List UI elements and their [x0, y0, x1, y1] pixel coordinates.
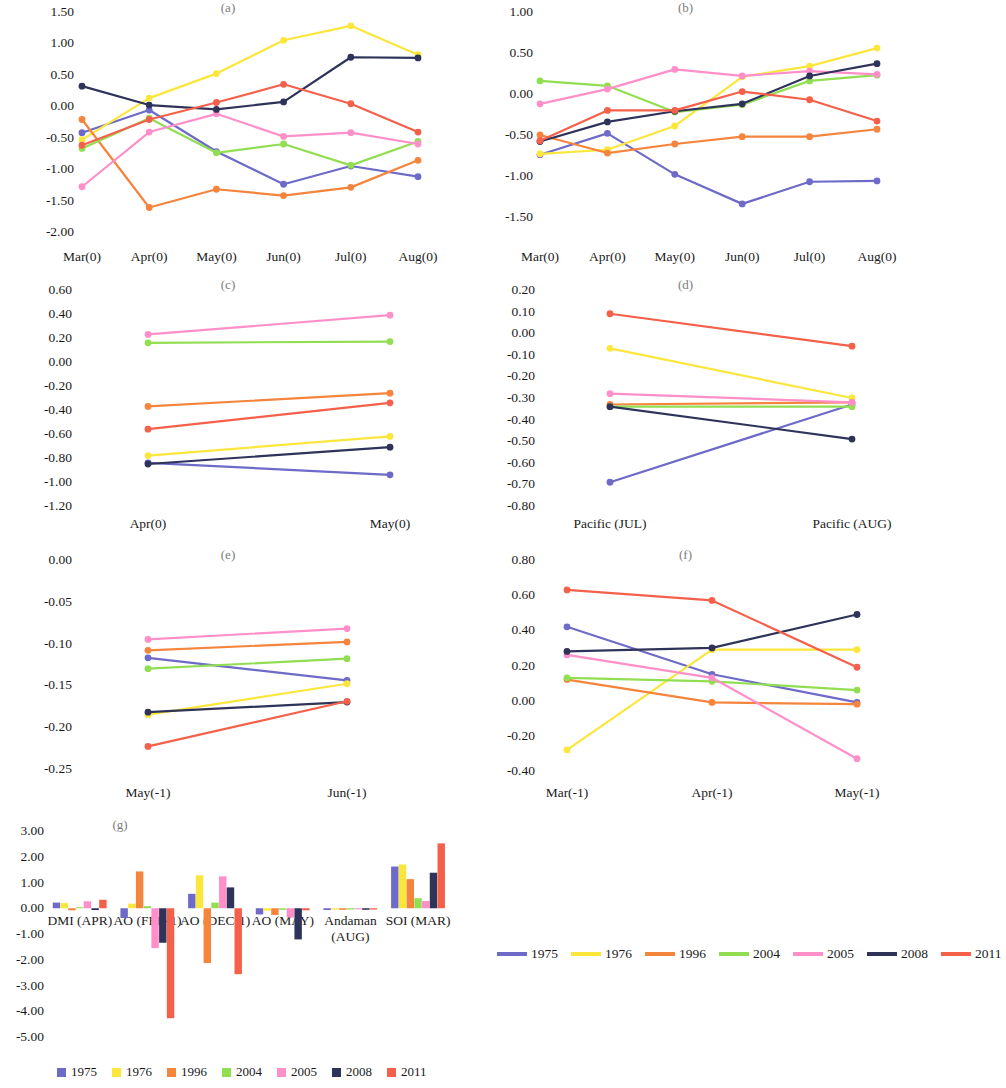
panel-g-plot [0, 817, 470, 1047]
series-marker-2011 [213, 99, 220, 106]
legend-line-swatch-icon [867, 952, 897, 956]
series-marker-1976 [564, 747, 571, 754]
bar-legend-item-1975[interactable]: 1975 [57, 1064, 97, 1080]
legend-item-1996[interactable]: 1996 [645, 946, 706, 962]
series-marker-2008 [604, 118, 611, 125]
bar-legend-item-2004[interactable]: 2004 [222, 1064, 262, 1080]
series-marker-2011 [387, 399, 394, 406]
panel-f-plot [457, 547, 914, 812]
bar-2011 [167, 908, 174, 1018]
bar-2004 [144, 906, 151, 908]
series-marker-2005 [671, 66, 678, 73]
legend-square-swatch-icon [167, 1068, 176, 1077]
series-marker-1976 [344, 680, 351, 687]
legend-item-1975[interactable]: 1975 [497, 946, 558, 962]
bar-1996 [68, 908, 75, 910]
series-line-2008 [610, 407, 852, 439]
series-marker-1975 [604, 130, 611, 137]
series-marker-2004 [213, 149, 220, 156]
series-marker-1996 [874, 126, 881, 133]
series-line-2005 [148, 629, 347, 640]
series-marker-2004 [145, 665, 152, 672]
bar-legend-item-label: 1975 [71, 1064, 97, 1080]
series-marker-2011 [347, 100, 354, 107]
series-line-2008 [82, 57, 418, 109]
series-marker-2011 [607, 310, 614, 317]
series-marker-2005 [415, 141, 422, 148]
bar-1976 [331, 908, 338, 909]
legend-square-swatch-icon [332, 1068, 341, 1077]
bar-1996 [407, 879, 414, 908]
series-marker-1975 [280, 181, 287, 188]
series-line-2004 [148, 342, 390, 343]
series-marker-2005 [347, 129, 354, 136]
series-marker-2005 [739, 73, 746, 80]
series-marker-1975 [607, 479, 614, 486]
legend-item-1976[interactable]: 1976 [571, 946, 632, 962]
bar-2008 [430, 873, 437, 909]
bar-2008 [159, 908, 166, 943]
series-marker-2008 [280, 98, 287, 105]
legend-line-swatch-icon [793, 952, 823, 956]
bar-legend-item-2008[interactable]: 2008 [332, 1064, 372, 1080]
legend-item-2008[interactable]: 2008 [867, 946, 928, 962]
series-line-1976 [148, 436, 390, 455]
series-line-2011 [610, 314, 852, 346]
series-marker-2004 [854, 687, 861, 694]
series-marker-2008 [607, 403, 614, 410]
series-marker-2011 [874, 118, 881, 125]
series-line-2005 [567, 655, 857, 759]
series-marker-1976 [280, 37, 287, 44]
bar-2011 [302, 908, 309, 910]
legend-item-2011[interactable]: 2011 [941, 946, 1002, 962]
bar-legend-item-1976[interactable]: 1976 [112, 1064, 152, 1080]
legend-item-label: 2004 [753, 946, 780, 962]
bar-2008 [227, 887, 234, 908]
legend-line-swatch-icon [645, 952, 675, 956]
bar-2011 [235, 908, 242, 974]
series-marker-2008 [347, 54, 354, 61]
series-marker-1975 [874, 178, 881, 185]
series-marker-1976 [213, 70, 220, 77]
bar-legend-item-2011[interactable]: 2011 [387, 1064, 427, 1080]
series-line-1975 [540, 133, 877, 204]
series-marker-1996 [806, 133, 813, 140]
series-marker-1996 [146, 204, 153, 211]
bar-legend-item-1996[interactable]: 1996 [167, 1064, 207, 1080]
series-marker-1976 [874, 45, 881, 52]
series-line-1975 [610, 404, 852, 482]
series-marker-1975 [671, 171, 678, 178]
panel-b-plot [457, 0, 914, 272]
bar-2008 [91, 908, 98, 910]
series-line-2005 [148, 315, 390, 334]
series-marker-2005 [607, 390, 614, 397]
series-marker-2004 [387, 338, 394, 345]
bar-2004 [347, 908, 354, 909]
legend-square-swatch-icon [387, 1068, 396, 1077]
series-marker-2005 [280, 133, 287, 140]
series-marker-2005 [604, 86, 611, 93]
bar-series-legend: 1975197619962004200520082011 [57, 1064, 442, 1080]
series-marker-2011 [145, 743, 152, 750]
legend-line-swatch-icon [571, 952, 601, 956]
bar-1976 [264, 908, 271, 910]
series-marker-1996 [280, 192, 287, 199]
legend-item-2005[interactable]: 2005 [793, 946, 854, 962]
bar-1976 [399, 864, 406, 908]
series-marker-1975 [806, 178, 813, 185]
series-marker-1976 [607, 345, 614, 352]
series-marker-2011 [564, 586, 571, 593]
panel-b: (b) 1.000.500.00-0.50-1.00-1.50Mar(0)Apr… [457, 0, 914, 272]
series-marker-2005 [344, 625, 351, 632]
series-marker-2004 [347, 162, 354, 169]
legend-item-2004[interactable]: 2004 [719, 946, 780, 962]
series-marker-2011 [739, 88, 746, 95]
series-marker-1975 [79, 129, 86, 136]
series-marker-2008 [564, 648, 571, 655]
bar-legend-item-2005[interactable]: 2005 [277, 1064, 317, 1080]
series-marker-1976 [854, 646, 861, 653]
bar-2005 [219, 876, 226, 908]
panel-c: (c) 0.600.400.200.00-0.20-0.40-0.60-0.80… [0, 277, 456, 542]
series-marker-2011 [671, 107, 678, 114]
series-line-1975 [567, 627, 857, 703]
